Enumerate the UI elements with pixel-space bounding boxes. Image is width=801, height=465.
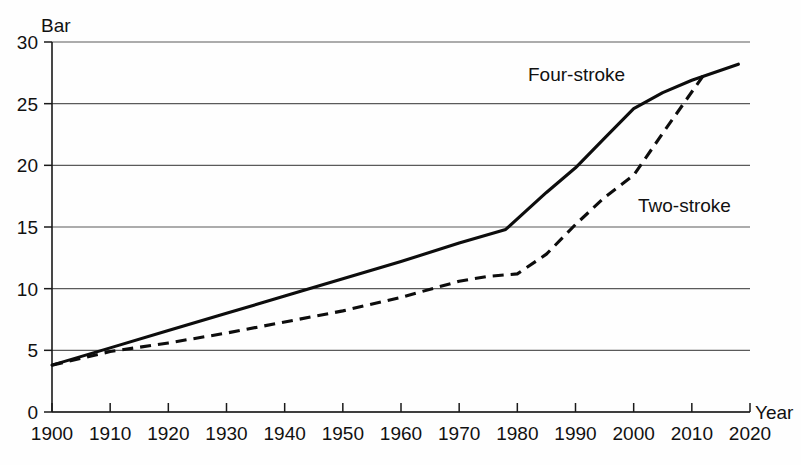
x-tick-label: 1960: [380, 423, 422, 444]
y-axis-tick-labels: 051015202530: [17, 32, 38, 423]
x-axis-tick-labels: 1900191019201930194019501960197019801990…: [31, 423, 771, 444]
x-tick-label: 1980: [496, 423, 538, 444]
line-chart: 051015202530 190019101920193019401950196…: [0, 0, 801, 465]
x-tick-label: 1910: [89, 423, 131, 444]
y-tick-label: 15: [17, 217, 38, 238]
x-tick-label: 1940: [264, 423, 306, 444]
series-label-four-stroke: Four-stroke: [528, 64, 625, 85]
y-tick-label: 25: [17, 94, 38, 115]
chart-container: 051015202530 190019101920193019401950196…: [0, 0, 801, 465]
x-tick-label: 1970: [438, 423, 480, 444]
series-line-four-stroke: [52, 64, 738, 365]
gridlines: [52, 42, 750, 412]
y-tick-label: 20: [17, 155, 38, 176]
x-tick-label: 1990: [554, 423, 596, 444]
x-axis-title: Year: [755, 402, 794, 423]
x-tick-label: 2000: [613, 423, 655, 444]
x-tick-label: 1930: [205, 423, 247, 444]
series-label-two-stroke: Two-stroke: [638, 195, 731, 216]
y-tick-label: 30: [17, 32, 38, 53]
x-tick-label: 1920: [147, 423, 189, 444]
x-tick-label: 1900: [31, 423, 73, 444]
y-tick-label: 0: [27, 402, 38, 423]
y-axis-title: Bar: [41, 15, 71, 36]
x-tick-label: 2010: [671, 423, 713, 444]
x-tick-label: 1950: [322, 423, 364, 444]
y-tick-label: 10: [17, 279, 38, 300]
y-tick-label: 5: [27, 340, 38, 361]
x-tick-label: 2020: [729, 423, 771, 444]
series-line-two-stroke: [52, 75, 703, 365]
